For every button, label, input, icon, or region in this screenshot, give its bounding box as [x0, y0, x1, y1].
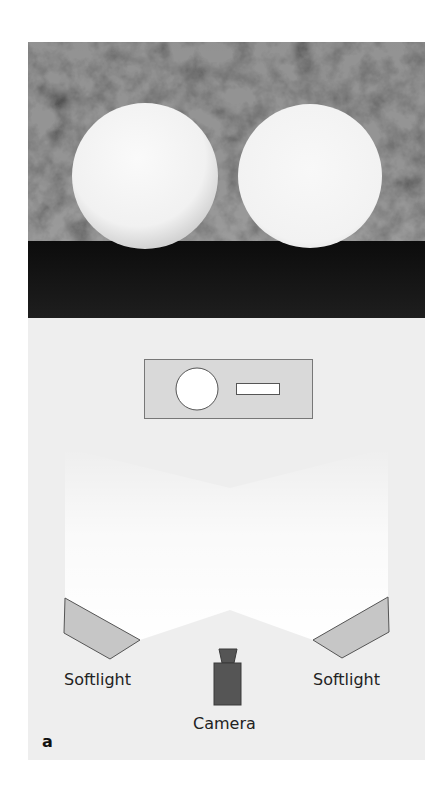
lighting-diagram	[28, 318, 425, 760]
right-softlight-label: Softlight	[313, 672, 380, 688]
left-light-beam	[65, 448, 230, 640]
photo-floor	[28, 241, 425, 318]
sphere-photo	[28, 42, 425, 318]
right-sphere	[238, 104, 382, 248]
photo-canvas	[28, 42, 425, 318]
flat-object-symbol	[237, 384, 280, 395]
left-softlight-label: Softlight	[64, 672, 131, 688]
camera-lens-icon	[219, 649, 237, 663]
figure: Softlight Softlight Camera a	[0, 0, 444, 786]
left-sphere	[72, 103, 218, 249]
lighting-diagram-panel: Softlight Softlight Camera a	[28, 318, 425, 760]
camera-label: Camera	[193, 716, 256, 732]
scene-box	[145, 360, 313, 419]
camera-body-icon	[214, 663, 241, 705]
sphere-symbol	[176, 368, 218, 410]
panel-label: a	[42, 734, 53, 750]
